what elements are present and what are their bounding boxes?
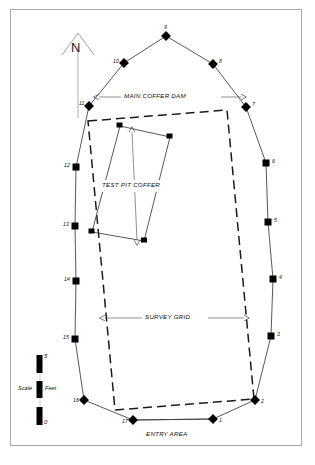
scale-bar [37,355,43,425]
point-label-6: 6 [272,159,275,164]
point-label-14: 14 [64,277,70,282]
point-label-5: 5 [274,218,277,223]
point-label-1: 1 [219,418,222,423]
point-label-11: 11 [79,101,84,106]
map-canvas [0,0,315,465]
point-label-17: 17 [122,419,128,424]
scale-label-right: Feet [45,385,56,391]
point-label-9: 9 [164,25,167,30]
scale-label-left: Scale [18,385,32,391]
point-label-2: 2 [261,399,264,404]
survey-grid-polygon [88,110,254,410]
scale-value-bottom: 0 [44,419,47,425]
site-plan-figure: N MAIN COFFER DAM TEST PIT COFFER SURVEY… [0,0,315,465]
point-label-8: 8 [219,59,222,64]
scale-value-top: 5 [44,353,47,359]
point-label-12: 12 [64,163,70,168]
point-label-4: 4 [279,275,282,280]
point-label-16: 16 [73,398,79,403]
north-label: N [71,40,80,55]
test-pit-coffer-label: TEST PIT COFFER [102,182,160,188]
survey-grid-label: SURVEY GRID [145,314,190,320]
main-coffer-dam-label: MAIN COFFER DAM [124,93,186,99]
point-label-15: 15 [63,335,69,340]
point-label-3: 3 [277,332,280,337]
entry-area-label: ENTRY AREA [146,431,187,437]
entry-area-line [133,419,213,420]
point-label-13: 13 [63,222,69,227]
point-label-7: 7 [252,102,255,107]
point-label-10: 10 [113,59,119,64]
